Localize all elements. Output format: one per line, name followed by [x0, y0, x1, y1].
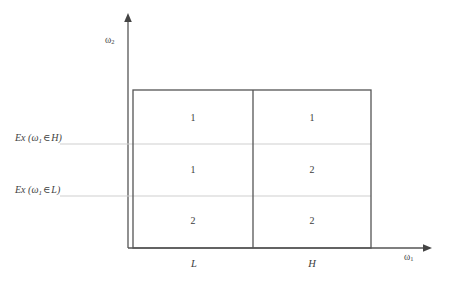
x-axis-label: ω1 [404, 253, 414, 263]
guide-label-ex-low-prefix: Ex [15, 184, 26, 195]
grid-outer-rect [133, 90, 371, 248]
x-axis-arrow-icon [423, 244, 432, 252]
guide-label-ex-low-member-icon: ∈ [42, 184, 51, 195]
x-axis-tick-label-H: H [300, 259, 324, 270]
guide-label-ex-low-close-paren: ) [57, 184, 60, 195]
guide-label-ex-low: Ex (ω1∈L) [15, 185, 60, 197]
y-axis-label: ω2 [105, 36, 115, 46]
grid-cell-L-top: 1 [181, 113, 205, 123]
grid-cell-H-bottom: 2 [300, 216, 324, 226]
guide-label-ex-high-set: H [51, 132, 58, 143]
guide-label-ex-high-member-icon: ∈ [42, 132, 51, 143]
y-axis-label-subscript: 2 [111, 38, 114, 45]
diagram-canvas: ω2 ω1 Ex (ω1∈H) Ex (ω1∈L) 1 1 1 2 2 2 L … [0, 0, 455, 287]
grid-cell-H-middle: 2 [300, 165, 324, 175]
guide-label-ex-high: Ex (ω1∈H) [15, 133, 62, 145]
grid-cell-L-bottom: 2 [181, 216, 205, 226]
y-axis-arrow-icon [124, 13, 132, 22]
x-axis-label-subscript: 1 [410, 255, 413, 262]
guide-label-ex-high-close-paren: ) [59, 132, 62, 143]
grid-cell-H-top: 1 [300, 113, 324, 123]
diagram-vector-layer [0, 0, 455, 287]
grid-cell-L-middle: 1 [181, 165, 205, 175]
x-axis-tick-label-L: L [182, 259, 206, 270]
guide-label-ex-high-prefix: Ex [15, 132, 26, 143]
